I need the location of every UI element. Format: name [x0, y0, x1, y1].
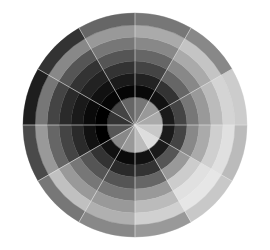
- grayscale-wheel: [0, 0, 270, 250]
- image-canvas: Grayscale radial color wheel: [0, 0, 270, 250]
